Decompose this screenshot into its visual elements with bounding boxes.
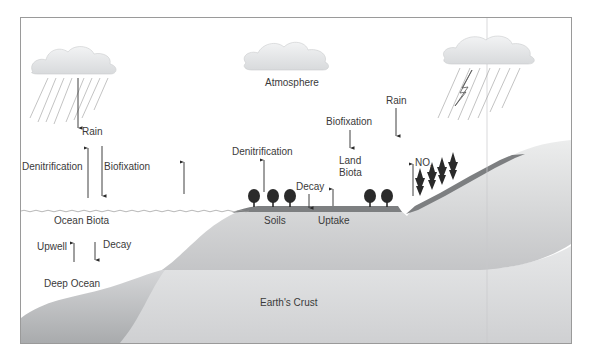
label-ocean-biota: Ocean Biota <box>54 215 109 226</box>
label-uptake: Uptake <box>318 215 350 226</box>
label-atmosphere: Atmosphere <box>265 77 319 88</box>
label-soils: Soils <box>264 215 286 226</box>
label-biofixation-ocean: Biofixation <box>104 161 150 172</box>
label-rain-left: Rain <box>82 126 103 137</box>
label-decay-land: Decay <box>296 181 324 192</box>
label-upwell: Upwell <box>37 241 67 252</box>
label-biofixation-land: Biofixation <box>326 116 372 127</box>
nitrogen-cycle-diagram: Atmosphere Rain Rain Denitrification Bio… <box>0 0 590 361</box>
label-denitrification-land: Denitrification <box>232 146 293 157</box>
label-decay-ocean: Decay <box>103 239 131 250</box>
label-land-biota-line1: Land <box>339 155 361 166</box>
soil-layer-lowland <box>232 206 402 213</box>
label-nox-main: NO <box>415 157 430 168</box>
label-nox-sub: x <box>430 163 433 169</box>
label-denitrification-ocean: Denitrification <box>22 161 83 172</box>
label-earths-crust: Earth's Crust <box>260 297 318 308</box>
label-rain-right: Rain <box>386 95 407 106</box>
label-land-biota-line2: Biota <box>339 167 362 178</box>
label-deep-ocean: Deep Ocean <box>44 278 100 289</box>
